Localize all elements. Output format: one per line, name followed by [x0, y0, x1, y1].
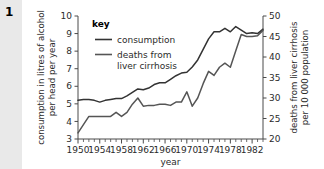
right-axis-title-line-1: deaths from liver cirrhosis — [289, 21, 299, 134]
legend-label-deaths-line-1: deaths from — [117, 50, 172, 60]
left-axis-tick-label: 10 — [61, 11, 73, 21]
x-axis-tick-label: 1958 — [110, 145, 133, 155]
left-axis-tick-label: 6 — [66, 81, 72, 91]
left-axis-title-line-2: per head per year — [47, 38, 57, 116]
legend-label-consumption: consumption — [117, 35, 175, 45]
chart-plot-area: 3456789102025303540455019501954195819621… — [0, 0, 324, 169]
x-axis-tick-label: 1970 — [175, 145, 198, 155]
x-axis-tick-label: 1982 — [241, 145, 264, 155]
legend-label-deaths-line-2: liver cirrhosis — [117, 61, 177, 71]
right-axis-title-line-2: per 10 000 population — [300, 30, 310, 126]
right-axis-tick-label: 50 — [269, 11, 281, 21]
x-axis-tick-label: 1978 — [219, 145, 242, 155]
x-axis-tick-label: 1974 — [197, 145, 220, 155]
right-axis-tick-label: 35 — [269, 73, 280, 83]
figure-container: 1 34567891020253035404550195019541958196… — [0, 0, 324, 169]
x-axis-title: year — [160, 157, 180, 167]
left-axis-tick-label: 8 — [66, 46, 72, 56]
x-axis-tick-label: 1950 — [67, 145, 90, 155]
left-axis-tick-label: 9 — [66, 29, 72, 39]
line-chart: 3456789102025303540455019501954195819621… — [0, 0, 324, 169]
right-axis-tick-label: 25 — [269, 114, 280, 124]
x-axis-tick-label: 1966 — [154, 145, 177, 155]
right-axis-tick-label: 40 — [269, 52, 281, 62]
legend-title: key — [92, 19, 110, 29]
left-axis-title-line-1: consumption in litres of alcohol — [36, 10, 46, 145]
right-axis-tick-label: 30 — [269, 93, 281, 103]
right-axis-tick-label: 45 — [269, 32, 280, 42]
left-axis-tick-label: 5 — [66, 99, 72, 109]
x-axis-tick-label: 1954 — [88, 145, 111, 155]
right-axis-tick-label: 20 — [269, 134, 281, 144]
x-axis-tick-label: 1962 — [132, 145, 155, 155]
series-line-deaths-from-liver-cirrhosis — [78, 30, 263, 133]
left-axis-tick-label: 3 — [66, 134, 72, 144]
left-axis-tick-label: 4 — [66, 117, 72, 127]
left-axis-tick-label: 7 — [66, 64, 72, 74]
